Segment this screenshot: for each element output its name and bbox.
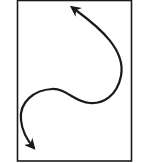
- frame-rectangle: [18, 1, 132, 162]
- diagram-canvas: [0, 0, 141, 163]
- diagram-svg: [0, 0, 141, 163]
